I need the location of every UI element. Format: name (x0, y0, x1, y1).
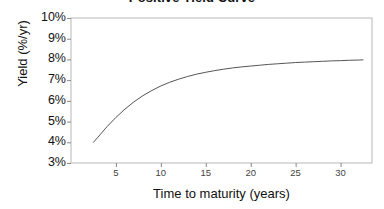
series-line-0 (93, 60, 363, 142)
plot-border (71, 18, 372, 163)
x-axis-title: Time to maturity (years) (71, 186, 372, 201)
plot-area (0, 0, 384, 209)
chart-container: Positive Yield Curve Yield (%/yr) 3%4%5%… (0, 0, 384, 209)
